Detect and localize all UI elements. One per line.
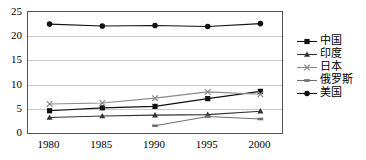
- legend-item-3[interactable]: 俄罗斯: [296, 73, 366, 86]
- x-axis-tick-label: 1980: [29, 138, 69, 150]
- series-3: [152, 115, 263, 127]
- chart-legend: 中国印度日本俄罗斯美国: [296, 34, 366, 99]
- legend-item-1[interactable]: 印度: [296, 47, 366, 60]
- square-marker-icon: [152, 104, 157, 109]
- x-axis-tick-label: 1990: [134, 138, 174, 150]
- legend-item-label: 美国: [318, 86, 342, 99]
- dash-marker-icon: [304, 79, 310, 82]
- dash-marker-icon: [205, 115, 211, 118]
- x-axis-tick-label: 2000: [239, 138, 279, 150]
- circle-marker-icon: [296, 86, 318, 99]
- x-axis: 19801985199019952000: [27, 138, 283, 154]
- x-axis-tick-label: 1995: [187, 138, 227, 150]
- triangle-marker-icon: [296, 47, 318, 60]
- dash-marker-icon: [296, 73, 318, 86]
- plot-area: [27, 11, 283, 134]
- dash-marker-icon: [152, 124, 158, 127]
- legend-item-2[interactable]: 日本: [296, 60, 366, 73]
- legend-item-4[interactable]: 美国: [296, 86, 366, 99]
- square-marker-icon: [47, 108, 52, 113]
- x-marker-icon: [296, 60, 318, 73]
- x-axis-tick-label: 1985: [81, 138, 121, 150]
- legend-item-label: 印度: [318, 47, 342, 60]
- y-axis-tick-label: 10: [0, 79, 22, 90]
- circle-marker-icon: [99, 23, 105, 29]
- y-axis-tick-label: 15: [0, 54, 22, 65]
- circle-marker-icon: [47, 21, 53, 27]
- square-marker-icon: [100, 105, 105, 110]
- square-marker-icon: [296, 34, 318, 47]
- circle-marker-icon: [258, 21, 264, 27]
- circle-marker-icon: [152, 23, 158, 29]
- circle-marker-icon: [205, 24, 211, 30]
- legend-item-0[interactable]: 中国: [296, 34, 366, 47]
- square-marker-icon: [205, 96, 210, 101]
- y-axis-tick-label: 5: [0, 103, 22, 114]
- y-axis-tick-label: 0: [0, 127, 22, 138]
- y-axis-tick-label: 20: [0, 30, 22, 41]
- square-marker-icon: [304, 39, 309, 44]
- legend-item-label: 俄罗斯: [318, 73, 352, 86]
- circle-marker-icon: [304, 91, 310, 97]
- legend-item-label: 中国: [318, 34, 342, 47]
- dash-marker-icon: [258, 118, 264, 121]
- series-4: [47, 21, 263, 30]
- y-axis-tick-label: 25: [0, 6, 22, 17]
- legend-item-label: 日本: [318, 60, 342, 73]
- chart-root: 0510152025 19801985199019952000 中国印度日本俄罗…: [0, 0, 366, 160]
- series-layer: [28, 12, 284, 135]
